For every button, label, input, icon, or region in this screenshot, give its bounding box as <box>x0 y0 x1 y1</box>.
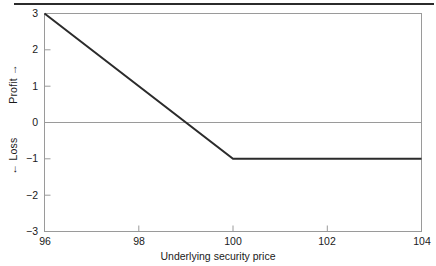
y-tick-label: −2 <box>12 190 38 201</box>
plot-area-frame <box>44 13 422 232</box>
x-tick-label: 96 <box>25 236 65 247</box>
x-tick-label: 100 <box>213 236 253 247</box>
y-tick-label: 2 <box>12 44 38 55</box>
header-rule <box>14 3 434 5</box>
y-axis-title-loss: ← Loss <box>7 126 19 186</box>
x-tick-label: 102 <box>307 236 347 247</box>
x-axis-title: Underlying security price <box>0 250 436 262</box>
loss-arrow-icon: ← <box>7 161 19 175</box>
profit-arrow-icon: → <box>7 64 19 78</box>
x-tick-label: 98 <box>119 236 159 247</box>
y-tick-label: 3 <box>12 8 38 19</box>
y-axis-loss-text: Loss <box>7 138 19 161</box>
y-axis-profit-text: Profit <box>7 78 19 104</box>
y-axis-title-profit: Profit → <box>7 54 19 114</box>
y-tick-label: −3 <box>12 226 38 237</box>
x-tick-label: 104 <box>402 236 436 247</box>
payoff-chart-figure: 3 2 1 0 −1 −2 −3 96 98 100 102 104 Under… <box>0 0 436 266</box>
